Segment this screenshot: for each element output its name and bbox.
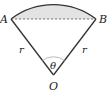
radius-oa: [11, 19, 54, 75]
sector-diagram: A B O r r θ: [0, 0, 110, 93]
label-theta: θ: [50, 60, 56, 71]
label-a: A: [0, 13, 8, 26]
label-r-left: r: [19, 44, 25, 55]
label-o: O: [49, 80, 58, 93]
label-r-right: r: [82, 44, 88, 55]
radius-ob: [54, 19, 97, 75]
label-b: B: [98, 13, 107, 26]
